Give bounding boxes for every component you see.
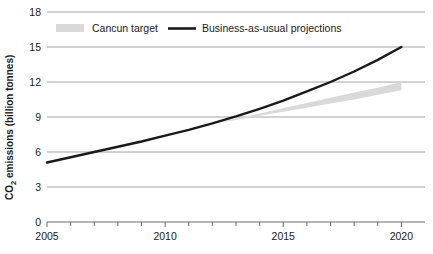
chart-legend: Cancun target Business-as-usual projecti… [56, 22, 341, 34]
y-tick-label-6: 6 [35, 146, 41, 158]
y-axis-title-rest: emissions (billion tonnes) [4, 55, 15, 181]
x-tick-label-2015: 2015 [272, 230, 296, 242]
gridlines [47, 12, 425, 187]
y-tick-label-18: 18 [29, 6, 41, 18]
y-tick-label-15: 15 [29, 41, 41, 53]
x-tick-label-2005: 2005 [35, 230, 59, 242]
legend-label-cancun-target: Cancun target [92, 22, 158, 34]
x-axis-tick-marks [47, 222, 401, 227]
y-tick-label-3: 3 [35, 181, 41, 193]
y-tick-label-9: 9 [35, 111, 41, 123]
y-axis-title-main: CO [4, 185, 15, 200]
x-tick-label-2010: 2010 [153, 230, 177, 242]
y-axis-tick-labels: 0369121518 [29, 6, 41, 228]
x-tick-label-2020: 2020 [390, 230, 414, 242]
y-axis-title-text: CO2 emissions (billion tonnes) [4, 55, 18, 200]
chart-container: 2005201020152020 0369121518 CO2 emission… [0, 0, 433, 254]
co2-emissions-line-chart: 2005201020152020 0369121518 CO2 emission… [0, 0, 433, 254]
y-tick-label-0: 0 [35, 216, 41, 228]
y-axis-title: CO2 emissions (billion tonnes) [4, 55, 18, 200]
series-business-as-usual-line [47, 47, 401, 163]
x-axis: 2005201020152020 [35, 222, 425, 242]
y-tick-label-12: 12 [29, 76, 41, 88]
legend-swatch-cancun-target [56, 24, 84, 32]
legend-label-business-as-usual: Business-as-usual projections [202, 22, 341, 34]
x-axis-tick-labels: 2005201020152020 [35, 230, 413, 242]
